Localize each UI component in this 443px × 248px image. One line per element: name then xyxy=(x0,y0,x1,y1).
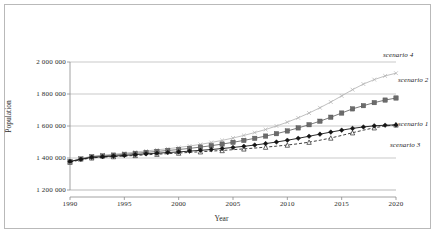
x-tick-label: 2000 xyxy=(159,200,199,208)
y-tick-label: 1 400 000 xyxy=(18,154,66,162)
data-point-marker xyxy=(350,107,354,111)
x-tick-label: 2015 xyxy=(322,200,362,208)
y-tick-label: 1 200 000 xyxy=(18,186,66,194)
data-point-marker xyxy=(318,106,322,110)
data-point-marker xyxy=(252,143,257,148)
data-point-marker xyxy=(339,128,344,133)
data-point-marker xyxy=(296,136,301,141)
data-point-marker xyxy=(307,123,311,127)
data-point-marker xyxy=(372,124,377,129)
series-label-scenario-2: scenario 2 xyxy=(398,76,428,84)
data-point-marker xyxy=(242,144,247,149)
data-point-marker xyxy=(274,140,279,145)
data-point-marker xyxy=(329,100,333,104)
data-point-marker xyxy=(361,125,366,130)
y-tick-label: 1 600 000 xyxy=(18,122,66,130)
data-point-marker xyxy=(274,131,278,135)
y-tick-label: 1 800 000 xyxy=(18,90,66,98)
x-tick-label: 1995 xyxy=(104,200,144,208)
data-point-marker xyxy=(372,100,376,104)
data-point-marker xyxy=(383,98,387,102)
data-point-marker xyxy=(296,126,300,130)
data-point-marker xyxy=(307,134,312,139)
data-point-marker xyxy=(307,111,311,115)
data-point-marker xyxy=(362,82,366,86)
data-point-marker xyxy=(296,116,300,120)
x-tick-label: 2020 xyxy=(376,200,416,208)
series-label-scenario-4: scenario 4 xyxy=(383,51,413,59)
data-point-marker xyxy=(242,138,246,142)
x-axis-title: Year xyxy=(0,214,443,223)
y-axis-title: Population xyxy=(4,87,13,147)
data-point-marker xyxy=(285,120,289,124)
data-point-marker xyxy=(394,96,398,100)
data-point-marker xyxy=(263,134,267,138)
data-point-marker xyxy=(318,132,323,137)
data-point-marker xyxy=(318,119,322,123)
data-point-marker xyxy=(329,130,334,135)
data-point-marker xyxy=(263,141,268,146)
x-tick-label: 2005 xyxy=(213,200,253,208)
population-scenarios-chart: Population Year 1 200 0001 400 0001 600 … xyxy=(0,0,443,248)
data-point-marker xyxy=(285,129,289,133)
data-point-marker xyxy=(351,88,355,92)
data-point-marker xyxy=(329,115,333,119)
data-point-marker xyxy=(340,94,344,98)
series-line xyxy=(70,98,396,162)
chart-plot-area xyxy=(0,0,443,248)
data-point-marker xyxy=(285,138,290,143)
data-point-marker xyxy=(231,140,235,144)
data-point-marker xyxy=(361,103,365,107)
data-point-marker xyxy=(253,136,257,140)
data-point-marker xyxy=(383,123,388,128)
series-label-scenario-1: scenario 1 xyxy=(398,120,428,128)
data-point-marker xyxy=(231,145,236,150)
data-point-marker xyxy=(350,126,355,131)
data-point-marker xyxy=(339,111,343,115)
x-tick-label: 1990 xyxy=(50,200,90,208)
data-point-marker xyxy=(372,78,376,82)
data-point-marker xyxy=(220,142,224,146)
series-label-scenario-3: scenario 3 xyxy=(390,141,420,149)
y-tick-label: 2 000 000 xyxy=(18,58,66,66)
x-tick-label: 2010 xyxy=(267,200,307,208)
